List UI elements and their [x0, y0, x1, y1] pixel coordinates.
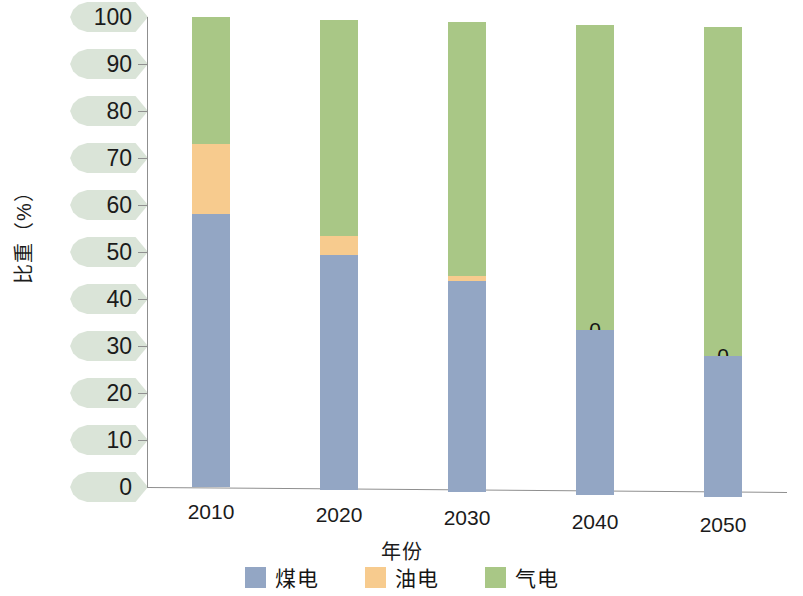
- bar-segment-煤电[interactable]: [704, 356, 742, 497]
- y-axis-tick-label: 20: [70, 378, 148, 408]
- x-axis-tick-label: 2020: [289, 503, 389, 527]
- y-tick-value: 50: [106, 239, 148, 266]
- bar-segment-油电[interactable]: [192, 144, 230, 215]
- y-tick-value: 20: [106, 380, 148, 407]
- y-axis-tick-label: 60: [70, 190, 148, 220]
- bar-segment-气电[interactable]: [192, 17, 230, 144]
- bar-segment-气电[interactable]: [448, 22, 486, 276]
- y-tick-value: 90: [106, 51, 148, 78]
- legend-swatch-icon: [485, 567, 506, 588]
- stacked-bar-chart: 比重（%） 1009080706050403020100 00 20102020…: [0, 0, 803, 596]
- bar-segment-煤电[interactable]: [448, 281, 486, 493]
- y-tick-value: 0: [119, 474, 148, 501]
- bar-segment-气电[interactable]: [704, 27, 742, 356]
- y-axis-title: 比重（%）: [8, 153, 37, 313]
- y-axis-tick-label: 80: [70, 96, 148, 126]
- y-tick-value: 60: [106, 192, 148, 219]
- bar-segment-油电[interactable]: [320, 236, 358, 255]
- y-tick-value: 30: [106, 333, 148, 360]
- y-axis-tick-label: 50: [70, 237, 148, 267]
- x-axis-tick-label: 2010: [161, 500, 261, 524]
- bar-group-2040[interactable]: 0: [576, 25, 614, 495]
- y-tick-value: 80: [106, 98, 148, 125]
- chart-legend: 煤电油电气电: [0, 562, 803, 592]
- y-axis-tick-label: 30: [70, 331, 148, 361]
- legend-label: 油电: [395, 562, 439, 592]
- y-axis-tick-label: 90: [70, 49, 148, 79]
- y-axis-tick-label: 70: [70, 143, 148, 173]
- plot-area: 00: [147, 17, 787, 487]
- bar-group-2030[interactable]: [448, 22, 486, 492]
- bar-segment-煤电[interactable]: [192, 214, 230, 487]
- legend-swatch-icon: [245, 567, 266, 588]
- bar-group-2050[interactable]: 0: [704, 27, 742, 497]
- y-tick-value: 100: [94, 4, 148, 31]
- x-axis-tick-label: 2050: [673, 513, 773, 537]
- bar-segment-煤电[interactable]: [576, 330, 614, 495]
- bar-group-2010[interactable]: [192, 17, 230, 487]
- y-tick-value: 70: [106, 145, 148, 172]
- bar-segment-气电[interactable]: [320, 20, 358, 236]
- legend-item[interactable]: 油电: [365, 562, 439, 592]
- x-axis-tick-label: 2040: [545, 510, 645, 534]
- x-axis-title: 年份: [0, 536, 803, 565]
- y-axis-tick-label: 40: [70, 284, 148, 314]
- bar-group-2020[interactable]: [320, 20, 358, 490]
- x-axis-tick-label: 2030: [417, 506, 517, 530]
- legend-item[interactable]: 气电: [485, 562, 559, 592]
- legend-item[interactable]: 煤电: [245, 562, 319, 592]
- legend-label: 煤电: [275, 562, 319, 592]
- y-axis-tick-label: 10: [70, 425, 148, 455]
- y-axis-tick-label: 100: [70, 2, 148, 32]
- legend-swatch-icon: [365, 567, 386, 588]
- y-axis-tick-label: 0: [70, 472, 148, 502]
- bar-segment-煤电[interactable]: [320, 255, 358, 490]
- legend-label: 气电: [515, 562, 559, 592]
- bar-segment-气电[interactable]: [576, 25, 614, 331]
- y-tick-value: 10: [106, 427, 148, 454]
- y-tick-value: 40: [106, 286, 148, 313]
